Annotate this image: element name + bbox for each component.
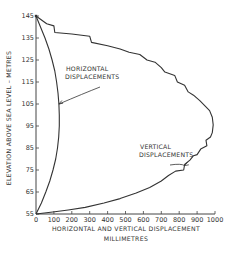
vertical-displacement-line — [36, 16, 213, 214]
y-tick-label: 85 — [26, 144, 34, 152]
x-tick-label: 0 — [34, 216, 38, 224]
x-tick-label: 100 — [48, 216, 60, 224]
vertical-displacements-label: DISPLACEMENTS — [139, 151, 193, 158]
x-axis-title: HORIZONTAL AND VERTICAL DISPLACEMENT — [52, 225, 200, 232]
displacement-chart: 01002003004005006007008009001000 5565758… — [0, 0, 235, 254]
top-point-marker — [35, 15, 37, 17]
y-tick-label: 65 — [26, 188, 34, 196]
x-tick-label: 800 — [173, 216, 185, 224]
x-tick-label: 900 — [191, 216, 203, 224]
y-tick-label: 125 — [22, 56, 34, 64]
x-tick-label: 1000 — [207, 216, 224, 224]
y-tick-label: 75 — [26, 166, 34, 174]
x-tick-label: 700 — [155, 216, 167, 224]
horizontal-displacements-label: HORIZONTAL — [66, 65, 109, 72]
y-tick-label: 115 — [22, 78, 34, 86]
y-axis-title: ELEVATION ABOVE SEA LEVEL – METRES — [5, 51, 12, 186]
x-ticks: 01002003004005006007008009001000 — [34, 211, 223, 224]
y-tick-label: 145 — [22, 12, 34, 20]
y-tick-label: 55 — [26, 210, 34, 218]
x-axis-units: MILLIMETRES — [104, 235, 148, 242]
axes — [36, 16, 215, 214]
x-tick-label: 300 — [83, 216, 95, 224]
x-tick-label: 400 — [101, 216, 113, 224]
horizontal-displacements-label: DISPLACEMENTS — [65, 73, 119, 80]
y-tick-label: 135 — [22, 34, 34, 42]
x-tick-label: 600 — [137, 216, 149, 224]
annotation-leader-line — [170, 164, 185, 165]
series-group — [35, 15, 213, 214]
horizontal-displacement-line — [36, 16, 59, 214]
vertical-displacements-label: VERTICAL — [140, 143, 172, 150]
x-tick-label: 500 — [119, 216, 131, 224]
y-tick-label: 95 — [26, 122, 34, 130]
annotations: HORIZONTALDISPLACEMENTSVERTICALDISPLACEM… — [59, 65, 193, 166]
y-tick-label: 105 — [22, 100, 34, 108]
annotation-leader-line — [59, 87, 100, 104]
x-tick-label: 200 — [66, 216, 78, 224]
